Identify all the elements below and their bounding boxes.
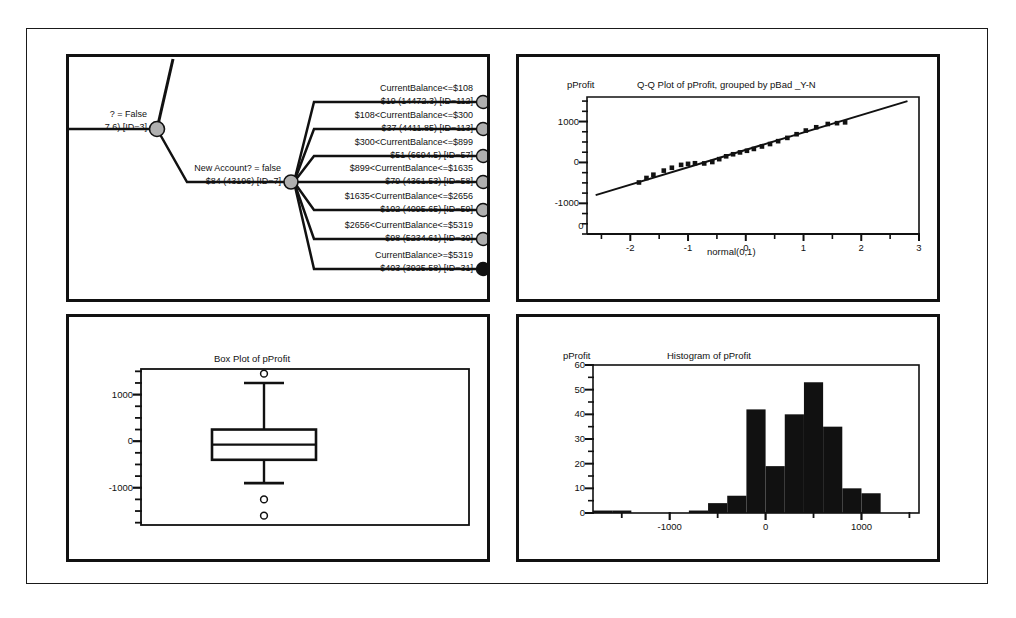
qq-plot-graphic: [519, 57, 937, 299]
histogram-y-tick-label: 40: [529, 408, 585, 419]
histogram-y-tick-label: 0: [529, 507, 585, 518]
tree-root-stats: 7.6) [ID=3]: [73, 122, 147, 132]
tree-leaf-stats: $102 (4095.65) [ID=59]: [269, 204, 473, 214]
tree-leaf-condition: $300<CurrentBalance<=$899: [269, 137, 473, 147]
histogram-panel: pProfit Histogram of pProfit 01020304050…: [516, 314, 940, 562]
box-y-tick-label: -1000: [75, 482, 133, 493]
histogram-y-tick-label: 60: [529, 359, 585, 370]
tree-leaf-condition: $108<CurrentBalance<=$300: [269, 110, 473, 120]
box-y-tick-label: 0: [75, 435, 133, 446]
qq-y-tick-label: -1000: [527, 197, 579, 208]
qq-x-tick-label: -2: [614, 242, 646, 253]
histogram-x-tick-label: -1000: [646, 521, 694, 532]
box-plot-panel: Box Plot of pProfit 10000-1000: [66, 314, 490, 562]
tree-leaf-condition: CurrentBalance<=$108: [269, 83, 473, 93]
tree-leaf-stats: $98 (5234.61) [ID=30]: [269, 233, 473, 243]
qq-x-axis-label: normal(0,1): [707, 246, 756, 257]
tree-leaf-stats: $79 (4361.53) [ID=58]: [269, 176, 473, 186]
qq-x-tick-label: -1: [672, 242, 704, 253]
tree-leaf-condition: $2656<CurrentBalance<=$5319: [269, 220, 473, 230]
tree-root-condition: ? = False: [73, 109, 147, 119]
tree-leaf-stats: $37 (4411.85) [ID=113]: [269, 123, 473, 133]
tree-leaf-stats: $51 (6694.5) [ID=57]: [269, 150, 473, 160]
tree-leaf-condition: $899<CurrentBalance<=$1635: [269, 163, 473, 173]
histogram-y-tick-label: 50: [529, 384, 585, 395]
qq-x-tick-label: 1: [788, 242, 820, 253]
qq-y-tick-label: 0: [527, 156, 579, 167]
figure-canvas: ? = False 7.6) [ID=3] New Account? = fal…: [0, 0, 1016, 618]
tree-split-stats: $84 (43196) [ID=7]: [153, 176, 281, 186]
tree-leaf-stats: $403 (3925.58) [ID=31]: [269, 263, 473, 273]
histogram-x-tick-label: 1000: [837, 521, 885, 532]
qq-y-tick-label: 1000: [527, 116, 579, 127]
qq-x-tick-label: 3: [903, 242, 935, 253]
histogram-y-tick-label: 30: [529, 433, 585, 444]
qq-plot-panel: pProfit Q-Q Plot of pProfit, grouped by …: [516, 54, 940, 302]
qq-x-tick-label: 2: [845, 242, 877, 253]
tree-leaf-condition: CurrentBalance>=$5319: [269, 250, 473, 260]
histogram-y-tick-label: 20: [529, 458, 585, 469]
histogram-x-tick-label: 0: [742, 521, 790, 532]
tree-leaf-stats: $19 (14472.3) [ID=112]: [269, 96, 473, 106]
box-y-tick-label: 1000: [75, 389, 133, 400]
decision-tree-panel: ? = False 7.6) [ID=3] New Account? = fal…: [66, 54, 490, 302]
qq-origin-label: 0: [575, 220, 587, 231]
histogram-y-tick-label: 10: [529, 482, 585, 493]
tree-split-condition: New Account? = false: [153, 163, 281, 173]
tree-leaf-condition: $1635<CurrentBalance<=$2656: [269, 191, 473, 201]
